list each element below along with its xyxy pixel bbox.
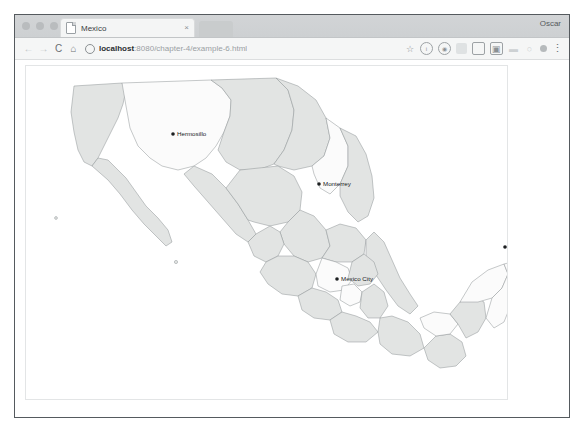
- home-button[interactable]: ⌂: [66, 41, 81, 56]
- city-label-mexico-city: Mexico City: [341, 275, 374, 282]
- globe-circle-icon[interactable]: ◉: [438, 42, 451, 55]
- url-host: localhost: [99, 44, 134, 53]
- url-text: localhost:8080/chapter-4/example-6.html: [99, 44, 247, 53]
- url-path: :8080/chapter-4/example-6.html: [134, 44, 247, 53]
- bookmark-star-icon[interactable]: ☆: [404, 43, 415, 54]
- screenshot-icon[interactable]: ▣: [490, 42, 503, 55]
- window-controls[interactable]: [22, 22, 58, 30]
- tab-mexico[interactable]: Mexico ×: [60, 18, 195, 37]
- state-puebla[interactable]: [360, 284, 388, 318]
- city-label-hermosillo: Hermosillo: [177, 130, 207, 137]
- close-window-button[interactable]: [22, 22, 30, 30]
- tab-title: Mexico: [81, 24, 180, 33]
- address-bar[interactable]: localhost:8080/chapter-4/example-6.html: [85, 41, 398, 56]
- new-tab-button[interactable]: [199, 21, 233, 37]
- avatar-dot-icon[interactable]: [540, 45, 547, 52]
- reload-button[interactable]: C: [51, 41, 66, 56]
- state-baja-california[interactable]: [71, 83, 126, 166]
- square-outline-icon[interactable]: [472, 42, 485, 55]
- state-oaxaca[interactable]: [378, 316, 424, 356]
- mexico-map-svg[interactable]: Hermosillo Monterrey Mexico City Cancun: [26, 66, 507, 399]
- info-circle-icon-ext[interactable]: i: [420, 42, 433, 55]
- page-viewport: Hermosillo Monterrey Mexico City Cancun: [15, 60, 569, 418]
- browser-toolbar: ← → C ⌂ localhost:8080/chapter-4/example…: [15, 38, 569, 60]
- state-michoacan[interactable]: [298, 288, 342, 320]
- state-jalisco[interactable]: [260, 256, 316, 296]
- minimize-window-button[interactable]: [36, 22, 44, 30]
- map-container: Hermosillo Monterrey Mexico City Cancun: [25, 65, 508, 400]
- city-marker-cancun[interactable]: [503, 245, 507, 249]
- close-icon[interactable]: ×: [184, 24, 189, 32]
- faint-icon-b[interactable]: ○: [524, 43, 535, 54]
- city-label-monterrey: Monterrey: [323, 180, 352, 187]
- state-chiapas[interactable]: [424, 334, 466, 368]
- tab-strip: Mexico × Oscar: [15, 15, 569, 38]
- screenshot-root: Mexico × Oscar ← → C ⌂ localhost:8080/ch…: [0, 0, 585, 432]
- toolbar-icon-group: ☆ i ◉ ▣ ▬ ○ ⋮: [404, 42, 563, 55]
- extension-blob-icon[interactable]: [456, 43, 467, 54]
- maximize-window-button[interactable]: [50, 22, 58, 30]
- state-campeche[interactable]: [450, 296, 486, 338]
- island-marker: [55, 217, 58, 220]
- info-circle-icon[interactable]: [85, 44, 95, 54]
- state-mexico-city[interactable]: [340, 284, 362, 306]
- browser-window: Mexico × Oscar ← → C ⌂ localhost:8080/ch…: [14, 14, 570, 418]
- city-marker-monterrey[interactable]: [317, 182, 321, 186]
- state-sonora[interactable]: [122, 80, 231, 170]
- faint-icon-a[interactable]: ▬: [508, 43, 519, 54]
- city-marker-hermosillo[interactable]: [171, 132, 175, 136]
- island-marker-2: [174, 260, 177, 263]
- forward-button[interactable]: →: [36, 41, 51, 56]
- back-button[interactable]: ←: [21, 41, 36, 56]
- state-baja-california-sur[interactable]: [92, 158, 172, 246]
- page-icon: [66, 22, 76, 34]
- profile-name[interactable]: Oscar: [540, 19, 561, 28]
- city-marker-mexico-city[interactable]: [335, 277, 339, 281]
- chrome-menu-icon[interactable]: ⋮: [552, 43, 563, 54]
